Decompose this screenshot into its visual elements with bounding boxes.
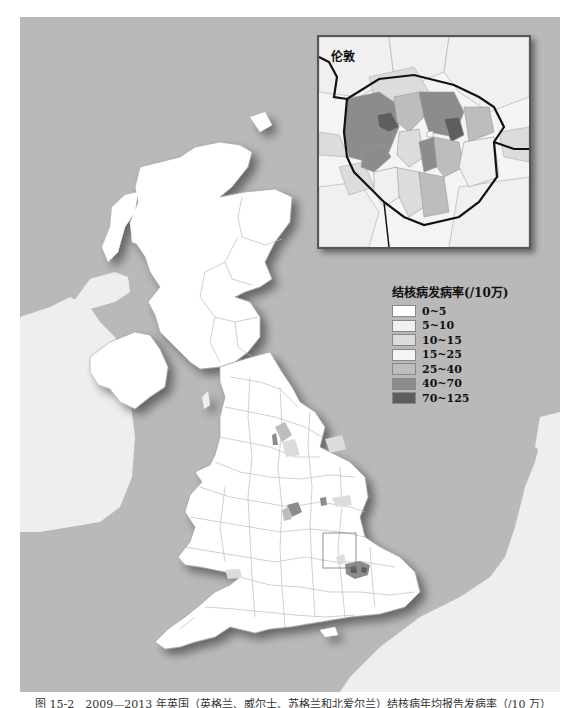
legend-item: 0~5 [392, 304, 532, 319]
legend-label: 10~15 [422, 334, 462, 347]
london-inset-map: 伦敦 [317, 35, 531, 249]
legend-item: 5~10 [392, 319, 532, 334]
legend-swatch [392, 349, 416, 361]
legend-label: 15~25 [422, 348, 462, 361]
london-inset-svg [319, 37, 529, 247]
legend-swatch [392, 363, 416, 375]
inset-label-london: 伦敦 [331, 47, 355, 64]
legend-item: 15~25 [392, 348, 532, 363]
figure-caption: 图 15-2 2009—2013 年英国（英格兰、威尔士、苏格兰和北爱尔兰）结核… [35, 697, 555, 708]
legend-item: 70~125 [392, 391, 532, 406]
legend-item: 10~15 [392, 333, 532, 348]
legend: 结核病发病率(/10万) 0~5 5~10 10~15 15~25 25~40 … [392, 283, 532, 406]
legend-label: 0~5 [422, 305, 447, 318]
legend-item: 40~70 [392, 377, 532, 392]
map-frame: 伦敦 结核病发病率(/10万) 0~5 5~10 10~15 15~25 25~… [20, 17, 560, 692]
legend-swatch [392, 305, 416, 317]
legend-item: 25~40 [392, 362, 532, 377]
isle-of-man [202, 391, 210, 409]
legend-title: 结核病发病率(/10万) [392, 283, 532, 300]
ireland-landmass [20, 297, 135, 532]
scotland [130, 142, 292, 369]
legend-swatch [392, 320, 416, 332]
isle-of-wight [320, 627, 338, 637]
legend-label: 70~125 [422, 392, 470, 405]
legend-swatch [392, 378, 416, 390]
legend-swatch [392, 334, 416, 346]
legend-label: 25~40 [422, 363, 462, 376]
legend-label: 40~70 [422, 377, 462, 390]
orkney [250, 112, 272, 132]
legend-label: 5~10 [422, 319, 454, 332]
ireland-north-tip [68, 272, 130, 309]
legend-swatch [392, 392, 416, 404]
